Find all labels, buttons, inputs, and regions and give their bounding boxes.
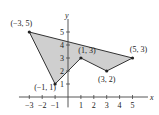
vertex-label: (5, 3) [130,45,148,54]
y-tick-label: 4 [60,41,64,50]
x-tick-label: −2 [38,101,47,110]
y-tick-label: 2 [60,67,64,76]
x-tick-label: 4 [118,101,122,110]
vertex-point [131,56,134,59]
x-tick-label: −1 [51,101,60,110]
vertex-label: (3, 2) [98,75,116,84]
x-tick-label: 1 [79,101,83,110]
vertex-point [28,30,31,33]
vertex-label: (−1, 1) [34,83,56,92]
y-axis-label: y [64,11,69,20]
vertex-label: (−3, 5) [10,19,32,28]
y-tick-label: 5 [60,28,64,37]
x-axis-label: x [149,93,154,102]
y-tick-label: 1 [60,80,64,89]
vertex-label: (1, 3) [78,46,96,55]
vertex-point [79,56,82,59]
x-tick-label: 3 [105,101,109,110]
x-tick-label: −3 [25,101,34,110]
polygon-chart: xy −3−2−11234512345 (−3, 5)(5, 3)(3, 2)(… [0,0,159,115]
vertex-point [105,69,108,72]
y-tick-label: 3 [60,54,64,63]
x-tick-label: 5 [131,101,135,110]
x-tick-label: 2 [92,101,96,110]
